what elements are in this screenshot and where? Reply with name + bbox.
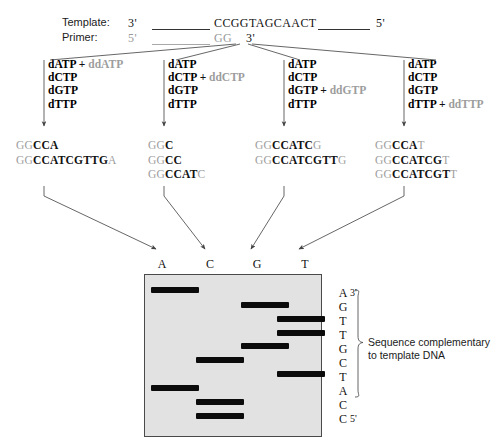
product-body: CCATCG xyxy=(392,154,442,166)
product-item: GGCCATCGTT xyxy=(375,167,457,182)
reaction-a-base-2: dGTP xyxy=(48,84,78,96)
product-terminator: A xyxy=(108,154,117,166)
product-body: CCATCGTT xyxy=(272,154,338,166)
reaction-a-line-2: dGTP xyxy=(48,84,123,97)
reaction-mix-a: dATP + ddATP dCTP dGTP dTTP xyxy=(48,58,123,111)
product-item: GGCCATCGTTG xyxy=(255,153,346,168)
readout-letter-4: G xyxy=(336,342,350,357)
gel-band-t-3 xyxy=(277,316,325,322)
readout-letter-3: T xyxy=(336,328,350,343)
product-item: GGC xyxy=(148,138,205,153)
product-body: CCATC xyxy=(272,139,313,151)
reaction-a-dd-0: ddATP xyxy=(88,58,123,70)
product-prefix: GG xyxy=(375,168,392,180)
product-item: GGCCA xyxy=(16,138,117,153)
product-prefix: GG xyxy=(375,139,392,151)
readout-letter-2: T xyxy=(336,314,350,329)
reaction-t-base-2: dGTP xyxy=(408,84,438,96)
reaction-g-line-1: dCTP xyxy=(288,71,366,84)
readout-letter-6: T xyxy=(336,370,350,385)
reaction-mix-g: dATP dCTP dGTP + ddGTP dTTP xyxy=(288,58,366,111)
template-right-line xyxy=(318,19,370,37)
reaction-t-line-2: dGTP xyxy=(408,84,484,97)
gel-band-t-4 xyxy=(277,330,325,336)
reaction-t-base-3: dTTP xyxy=(408,98,436,110)
reaction-a-base-3: dTTP xyxy=(48,98,77,110)
reaction-c-line-3: dTTP xyxy=(168,98,245,111)
primer-left-end: 5' xyxy=(128,28,137,46)
product-stems xyxy=(44,186,404,196)
reaction-c-line-1: dCTP + ddCTP xyxy=(168,71,245,84)
reaction-c-base-1: dCTP xyxy=(168,71,197,83)
reaction-a-base-1: dCTP xyxy=(48,71,77,83)
product-item: GGCCAT xyxy=(375,138,457,153)
product-terminator: T xyxy=(418,139,425,151)
product-prefix: GG xyxy=(148,154,165,166)
reaction-c-line-0: dATP xyxy=(168,58,245,71)
product-body: CCA xyxy=(33,139,59,151)
product-body: CCAT xyxy=(165,168,198,180)
product-terminator: T xyxy=(442,154,449,166)
product-terminator: G xyxy=(338,154,347,166)
reaction-c-dd-1: ddCTP xyxy=(209,71,245,83)
product-body: CCATCGTTG xyxy=(33,154,108,166)
gel-lane-label-c: C xyxy=(200,257,220,272)
product-prefix: GG xyxy=(255,154,272,166)
gel-band-g-2 xyxy=(241,302,289,308)
product-item: GGCCATC xyxy=(148,167,205,182)
reaction-g-dd-2: ddGTP xyxy=(330,84,366,96)
sequencing-gel xyxy=(144,274,322,437)
products-c: GGC GGCC GGCCATC xyxy=(148,138,205,182)
readout-brace xyxy=(355,290,363,397)
reaction-t-base-0: dATP xyxy=(408,58,437,70)
readout-letter-0: A xyxy=(336,286,350,301)
readout-annotation-line-2: to template DNA xyxy=(368,349,490,362)
reaction-c-line-2: dGTP xyxy=(168,84,245,97)
readout-letter-9: C xyxy=(336,412,350,427)
readout-top-end: 3' xyxy=(350,287,357,298)
gel-band-c-9 xyxy=(196,399,244,405)
reaction-g-line-3: dTTP xyxy=(288,98,366,111)
reaction-a-line-0: dATP + ddATP xyxy=(48,58,123,71)
reaction-g-base-1: dCTP xyxy=(288,71,317,83)
reaction-t-dd-3: ddTTP xyxy=(448,98,483,110)
product-item: GGCCATCGTTGA xyxy=(16,153,117,168)
products-a: GGCCA GGCCATCGTTGA xyxy=(16,138,117,167)
reaction-g-line-2: dGTP + ddGTP xyxy=(288,84,366,97)
gel-band-c-6 xyxy=(196,357,244,363)
product-prefix: GG xyxy=(148,139,165,151)
reaction-g-plus-2: + xyxy=(320,84,327,96)
reaction-t-line-0: dATP xyxy=(408,58,484,71)
reaction-t-line-1: dCTP xyxy=(408,71,484,84)
readout-letter-7: A xyxy=(336,384,350,399)
primer-left-end-label: 5' xyxy=(128,31,137,45)
reaction-t-plus-3: + xyxy=(439,98,446,110)
primer-row: Primer: xyxy=(62,27,97,45)
reaction-a-plus-0: + xyxy=(79,58,86,70)
primer-right-end: 3' xyxy=(246,28,255,46)
reaction-g-base-3: dTTP xyxy=(288,98,317,110)
reaction-mix-t: dATP dCTP dGTP dTTP + ddTTP xyxy=(408,58,484,111)
reaction-a-base-0: dATP xyxy=(48,58,76,70)
product-prefix: GG xyxy=(375,154,392,166)
reaction-t-base-1: dCTP xyxy=(408,71,437,83)
template-right-end-label: 5' xyxy=(376,16,385,30)
template-right-end: 5' xyxy=(376,13,385,31)
primer-sequence: GG xyxy=(214,28,232,46)
reaction-a-line-1: dCTP xyxy=(48,71,123,84)
product-body: CC xyxy=(165,154,182,166)
gel-band-c-10 xyxy=(196,413,244,419)
reaction-a-line-3: dTTP xyxy=(48,98,123,111)
product-item: GGCCATCG xyxy=(255,138,346,153)
readout-annotation: Sequence complementary to template DNA xyxy=(368,336,490,362)
primer-sequence-text: GG xyxy=(214,31,232,45)
readout-annotation-line-1: Sequence complementary xyxy=(368,336,490,349)
product-body: CCA xyxy=(392,139,418,151)
product-terminator: T xyxy=(450,168,457,180)
converging-arrows xyxy=(44,196,404,249)
reaction-mix-c: dATP dCTP + ddCTP dGTP dTTP xyxy=(168,58,245,111)
product-body: CCATCGT xyxy=(392,168,450,180)
product-prefix: GG xyxy=(16,139,33,151)
gel-band-a-8 xyxy=(151,385,199,391)
product-body: C xyxy=(165,139,174,151)
